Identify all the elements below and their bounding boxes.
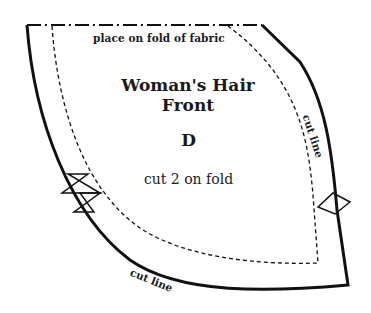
fold-instruction-label: place on fold of fabric bbox=[93, 32, 225, 44]
cut-line-outer bbox=[27, 25, 348, 289]
cut-instruction: cut 2 on fold bbox=[0, 171, 371, 187]
pattern-title-line2: Front bbox=[0, 95, 371, 115]
pattern-title-line1: Woman's Hair bbox=[0, 75, 371, 95]
notch-right-diamond-icon bbox=[318, 193, 350, 214]
pattern-title: Woman's Hair Front bbox=[0, 75, 371, 115]
